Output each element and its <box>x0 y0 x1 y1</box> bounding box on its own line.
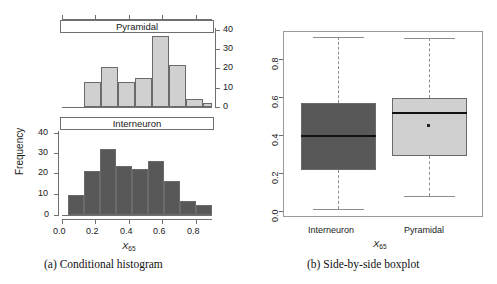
pyramidal-baseline <box>62 107 212 108</box>
histogram-x-axis <box>62 219 212 220</box>
histogram-bar <box>84 171 100 215</box>
pyramidal-subpanel <box>62 30 212 108</box>
interneuron-subpanel <box>62 133 212 216</box>
histogram-bar <box>203 103 212 107</box>
strip-label-pyramidal: Pyramidal <box>60 20 214 33</box>
histogram-x-variable-label: X65 <box>122 240 136 252</box>
interneuron-ytick <box>54 215 58 216</box>
histogram-bar <box>164 181 180 215</box>
pyramidal-ytick-label: 10 <box>223 82 233 92</box>
interneuron-ytick <box>54 173 58 174</box>
whisker-line <box>429 156 430 196</box>
whisker-cap-lower <box>404 196 455 197</box>
boxplot-ytick-label: 0.4 <box>270 133 280 146</box>
x-var-subscript: 65 <box>128 245 135 252</box>
interneuron-baseline <box>62 215 212 216</box>
histogram-xtick-label: 0.4 <box>120 226 133 236</box>
histogram-bar <box>186 99 203 107</box>
interneuron-ytick <box>54 153 58 154</box>
frequency-axis-label: Frequency <box>14 128 25 175</box>
strip-label-interneuron: Interneuron <box>60 117 214 130</box>
pyramidal-ytick-label: 40 <box>223 24 233 34</box>
histogram-xtick <box>162 220 163 224</box>
x-var-subscript: 65 <box>379 243 386 250</box>
pyramidal-ytick-label: 0 <box>223 101 228 111</box>
histogram-xtick-label: 0.2 <box>86 226 99 236</box>
interneuron-ytick <box>54 194 58 195</box>
mean-marker-pyramidal <box>427 124 430 127</box>
boxplot-ytick-label: 0.8 <box>270 57 280 70</box>
pyramidal-axis-tick <box>216 88 220 89</box>
interneuron-ytick-label: 20 <box>38 167 48 177</box>
histogram-bar <box>68 195 84 215</box>
boxplot-panel: 0.8 0.6 0.4 0.2 0.0 Interneuron Pyramida… <box>250 0 497 284</box>
caption-b: (b) Side-by-side boxplot <box>307 258 419 270</box>
boxplot-ytick-label: 0.2 <box>270 171 280 184</box>
whisker-cap-lower <box>313 209 364 210</box>
pyramidal-axis-tick <box>216 68 220 69</box>
pyramidal-ytick-label: 30 <box>223 43 233 53</box>
histogram-bar <box>100 149 116 215</box>
whisker-line <box>338 170 339 209</box>
histogram-bar <box>169 65 186 107</box>
histogram-bar <box>180 201 196 215</box>
interneuron-left-axis <box>58 131 59 216</box>
conditional-histogram-panel: Frequency Pyramidal 40 30 20 10 0 Intern… <box>0 0 250 284</box>
interneuron-ytick <box>54 133 58 134</box>
histogram-xtick <box>62 220 63 224</box>
boxplot-ytick-label: 0.6 <box>270 95 280 108</box>
whisker-cap-upper <box>404 38 455 39</box>
caption-a: (a) Conditional histogram <box>44 258 163 270</box>
histogram-bar <box>132 169 148 215</box>
interneuron-ytick-label: 10 <box>38 188 48 198</box>
pyramidal-axis-tick <box>216 107 220 108</box>
interneuron-ytick-label: 0 <box>44 209 49 219</box>
histogram-xtick-label: 0.6 <box>153 226 166 236</box>
pyramidal-ytick-label: 20 <box>223 62 233 72</box>
whisker-cap-upper <box>313 37 364 38</box>
histogram-bar <box>148 161 164 215</box>
histogram-bar <box>101 67 118 107</box>
interneuron-ytick-label: 30 <box>38 147 48 157</box>
histogram-xtick-label: 0.8 <box>187 226 200 236</box>
whisker-line <box>429 38 430 98</box>
median-line-interneuron <box>301 135 376 137</box>
histogram-bar <box>84 82 101 107</box>
box-pyramidal <box>392 98 467 156</box>
histogram-bar <box>196 205 212 215</box>
pyramidal-axis-tick <box>216 49 220 50</box>
median-line-pyramidal <box>392 112 467 114</box>
histogram-bar <box>152 36 169 107</box>
whisker-line <box>338 37 339 103</box>
boxplot-category-label-interneuron: Interneuron <box>308 225 354 235</box>
pyramidal-axis-tick <box>216 30 220 31</box>
boxplot-x-variable-label: X65 <box>373 238 387 250</box>
histogram-xtick-label: 0.0 <box>53 226 66 236</box>
histogram-xtick <box>129 220 130 224</box>
histogram-bar <box>118 82 135 107</box>
histogram-xtick <box>196 220 197 224</box>
histogram-xtick <box>95 220 96 224</box>
interneuron-ytick-label: 40 <box>38 127 48 137</box>
boxplot-ytick-label: 0.0 <box>270 209 280 222</box>
histogram-bar <box>116 166 132 215</box>
histogram-bar <box>135 78 152 107</box>
boxplot-category-label-pyramidal: Pyramidal <box>404 225 444 235</box>
